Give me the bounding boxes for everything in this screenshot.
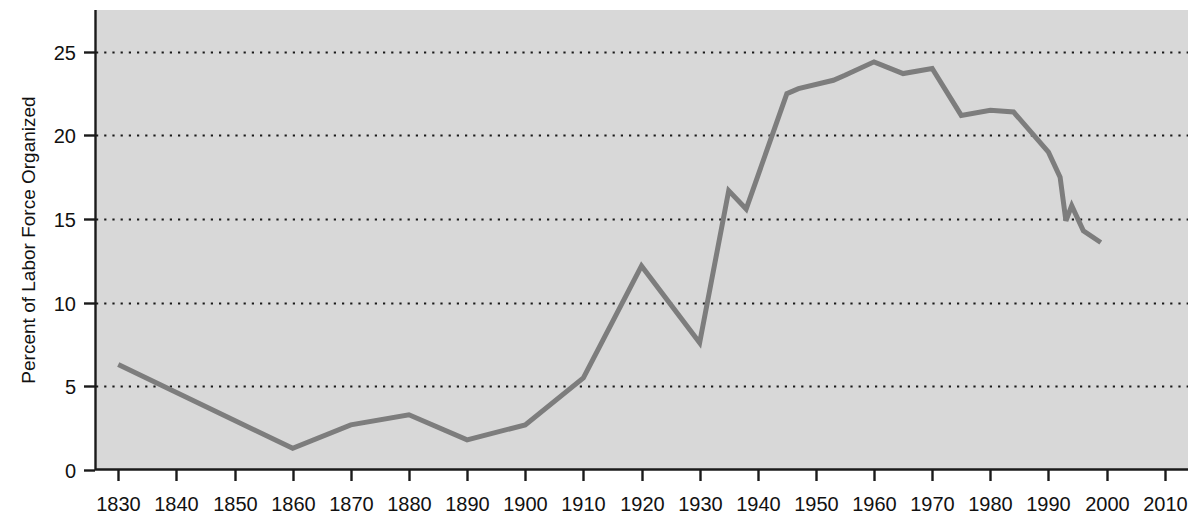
y-tick-label-5: 5 bbox=[65, 376, 76, 398]
x-tick-label-1850: 1850 bbox=[213, 493, 258, 515]
x-tick-label-1960: 1960 bbox=[852, 493, 897, 515]
x-tick-label-1990: 1990 bbox=[1026, 493, 1071, 515]
y-tick-label-20: 20 bbox=[54, 125, 76, 147]
x-tick-label-1970: 1970 bbox=[910, 493, 955, 515]
y-tick-label-25: 25 bbox=[54, 42, 76, 64]
x-tick-label-1860: 1860 bbox=[271, 493, 316, 515]
x-tick-label-1940: 1940 bbox=[736, 493, 781, 515]
y-tick-label-10: 10 bbox=[54, 293, 76, 315]
plot-area-background bbox=[95, 10, 1188, 470]
x-tick-label-1980: 1980 bbox=[968, 493, 1013, 515]
y-axis-title: Percent of Labor Force Organized bbox=[18, 96, 39, 383]
x-tick-label-1910: 1910 bbox=[561, 493, 606, 515]
x-tick-label-1880: 1880 bbox=[387, 493, 432, 515]
x-tick-label-1840: 1840 bbox=[154, 493, 199, 515]
x-tick-label-1920: 1920 bbox=[620, 493, 665, 515]
x-tick-label-1930: 1930 bbox=[678, 493, 723, 515]
x-tick-label-1890: 1890 bbox=[445, 493, 490, 515]
x-tick-label-1900: 1900 bbox=[503, 493, 548, 515]
x-tick-label-1950: 1950 bbox=[794, 493, 839, 515]
x-tick-label-2000: 2000 bbox=[1085, 493, 1130, 515]
y-tick-label-0: 0 bbox=[65, 460, 76, 482]
x-tick-label-2010: 2010 bbox=[1143, 493, 1188, 515]
union-membership-line-chart: 0510152025 18301840185018601870188018901… bbox=[0, 0, 1200, 530]
x-tick-label-1870: 1870 bbox=[329, 493, 374, 515]
y-tick-label-15: 15 bbox=[54, 209, 76, 231]
chart-canvas: 0510152025 18301840185018601870188018901… bbox=[0, 0, 1200, 530]
x-tick-label-1830: 1830 bbox=[96, 493, 141, 515]
